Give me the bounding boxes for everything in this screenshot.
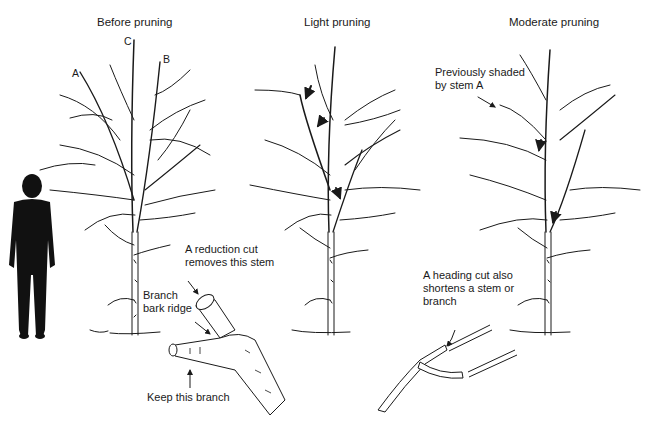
callout-heading-cut: A heading cut also shortens a stem or br… [423,269,514,308]
callout-line: A reduction cut [185,243,274,256]
panel-title-before-pruning: Before pruning [97,16,172,29]
callout-line: removes this stem [185,256,274,269]
callout-reduction-cut: A reduction cut removes this stem [185,243,274,269]
callout-previously-shaded: Previously shaded by stem A [435,66,525,92]
stem-label-b: B [163,53,170,66]
tree-light-pruning [250,47,420,335]
callout-line: Branch [143,289,192,302]
human-silhouette-icon [9,174,55,339]
stem-label-a: A [72,67,79,80]
callout-line: branch [423,295,514,308]
callout-line: bark ridge [143,302,192,315]
panel-title-moderate-pruning: Moderate pruning [509,16,599,29]
stem-label-c: C [124,35,132,48]
diagram-artwork [0,0,648,433]
callout-line: by stem A [435,79,525,92]
callout-line: Previously shaded [435,66,525,79]
heading-cut-detail [378,325,517,412]
panel-title-light-pruning: Light pruning [304,16,371,29]
callout-branch-bark-ridge: Branch bark ridge [143,289,192,315]
callout-keep-branch: Keep this branch [147,391,230,404]
callout-line: shortens a stem or [423,282,514,295]
callout-line: A heading cut also [423,269,514,282]
